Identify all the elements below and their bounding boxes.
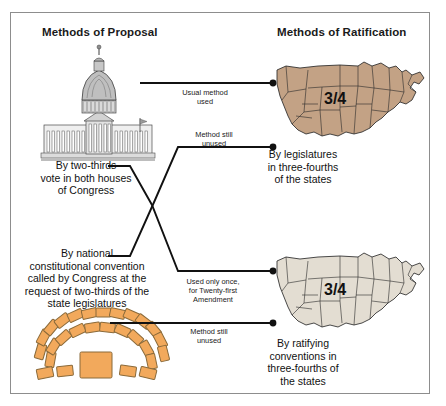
- constitutional-amendment-process-diagram: Methods of Proposal Methods of Ratificat…: [0, 0, 446, 406]
- map-label-three-fourths-top: 3/4: [324, 90, 346, 108]
- caption-ratification-conventions: By ratifying conventions in three-fourth…: [248, 337, 358, 387]
- column-title-methods-of-ratification: Methods of Ratification: [277, 26, 406, 38]
- edge-label-usual-method: Usual method used: [168, 88, 242, 106]
- edge-label-method-still-unused-bottom: Method still unused: [174, 327, 244, 345]
- edge-label-used-only-once: Used only once, for Twenty-first Amendme…: [170, 277, 256, 304]
- map-label-three-fourths-bottom: 3/4: [324, 281, 346, 299]
- caption-ratification-legislatures: By legislatures in three-fourths of the …: [243, 148, 363, 186]
- caption-proposal-congress: By two-thirds vote in both houses of Con…: [22, 159, 150, 197]
- column-title-methods-of-proposal: Methods of Proposal: [42, 26, 158, 38]
- caption-proposal-national-convention: By national constitutional convention ca…: [16, 247, 158, 310]
- edge-label-method-still-unused-top: Method still unused: [180, 130, 248, 148]
